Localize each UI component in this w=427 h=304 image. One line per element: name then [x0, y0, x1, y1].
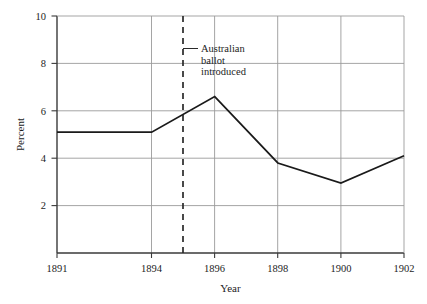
- ytick-label-8: 8: [41, 58, 46, 69]
- y-axis-ticks: [52, 16, 58, 206]
- ytick-label-10: 10: [36, 11, 47, 22]
- xtick-label-1900: 1900: [330, 263, 351, 274]
- xtick-label-1891: 1891: [47, 263, 68, 274]
- xtick-label-1902: 1902: [394, 263, 415, 274]
- x-axis-tick-labels: 1891 1894 1896 1898 1900 1902: [47, 263, 415, 274]
- chart-figure: 2 4 6 8 10 1891 1894 1896 1898 1900 1902…: [0, 0, 427, 304]
- xtick-label-1896: 1896: [204, 263, 225, 274]
- xtick-label-1894: 1894: [141, 263, 163, 274]
- x-axis-title: Year: [220, 282, 241, 294]
- xtick-label-1898: 1898: [267, 263, 288, 274]
- ytick-label-6: 6: [41, 106, 46, 117]
- annotation-line-3: introduced: [201, 66, 247, 77]
- y-axis-title: Percent: [14, 118, 26, 151]
- ytick-label-4: 4: [41, 153, 47, 164]
- annotation-line-1: Australian: [201, 43, 245, 54]
- x-axis-ticks: [57, 253, 404, 258]
- y-axis-tick-labels: 2 4 6 8 10: [36, 11, 47, 212]
- ytick-label-2: 2: [41, 200, 46, 211]
- annotation-line-2: ballot: [201, 55, 225, 66]
- line-chart: 2 4 6 8 10 1891 1894 1896 1898 1900 1902…: [0, 0, 427, 304]
